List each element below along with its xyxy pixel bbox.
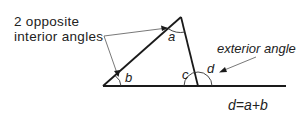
angle-label-d: d [207,62,214,75]
side-left [103,17,181,86]
label-opposite-line2: interior angles [14,30,103,44]
exterior-pointer [222,57,256,71]
label-opposite-line1: 2 opposite [14,15,79,29]
pointer-lines [104,28,167,76]
angle-label-a: a [168,30,175,43]
label-exterior-angle: exterior angle [217,42,296,55]
arc-b [115,76,121,87]
angle-label-b: b [125,71,132,84]
arrowhead-d-icon [219,67,227,73]
formula: d=a+b [228,98,268,112]
angle-label-c: c [182,68,189,81]
